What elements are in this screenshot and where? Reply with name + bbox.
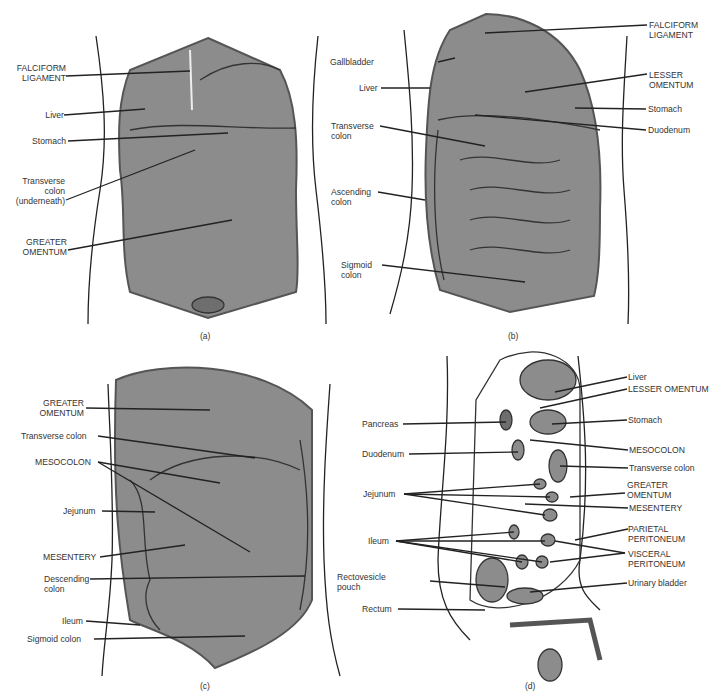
anatomy-illustration — [0, 0, 720, 698]
label-greater-omentum-a: GREATER OMENTUM — [10, 237, 67, 257]
label-mesocolon-c: MESOCOLON — [35, 457, 91, 467]
body-outline-left-b — [390, 30, 413, 314]
label-descending-colon-c: Descending colon — [44, 574, 89, 594]
label-visceral-peritoneum-d: VISCERAL PERITONEUM — [628, 549, 685, 569]
caption-d: (d) — [525, 681, 535, 691]
label-rectum-d: Rectum — [362, 604, 392, 614]
label-ileum-c: Ileum — [62, 616, 83, 626]
label-liver-d: Liver — [628, 372, 647, 382]
label-sigmoid-colon-b: Sigmoid colon — [341, 260, 372, 280]
label-ascending-colon-b: Ascending colon — [331, 187, 371, 207]
label-pancreas-d: Pancreas — [362, 419, 398, 429]
label-sigmoid-colon-c: Sigmoid colon — [27, 634, 81, 644]
label-liver-b: Liver — [359, 83, 378, 93]
label-falciform-ligament-b: FALCIFORM LIGAMENT — [649, 20, 698, 40]
label-ileum-d: Ileum — [368, 536, 389, 546]
caption-a: (a) — [200, 331, 210, 341]
body-outline-right-a — [312, 36, 326, 324]
caption-b: (b) — [508, 331, 518, 341]
label-lesser-omentum-b: LESSER OMENTUM — [649, 70, 693, 90]
label-jejunum-d: Jejunum — [363, 489, 395, 499]
back-outline-d — [438, 356, 470, 640]
body-outline-right-c — [323, 384, 340, 676]
label-transverse-colon-b: Transverse colon — [331, 121, 374, 141]
label-duodenum-b: Duodenum — [648, 125, 690, 135]
label-duodenum-d: Duodenum — [362, 449, 404, 459]
body-outline-left-c — [102, 384, 113, 676]
label-stomach-d: Stomach — [628, 415, 662, 425]
label-transverse-colon-a: Transverse colon (underneath) — [5, 176, 65, 206]
label-greater-omentum-c: GREATER OMENTUM — [20, 398, 84, 418]
label-mesocolon-d: MESOCOLON — [629, 445, 685, 455]
label-jejunum-c: Jejunum — [63, 506, 95, 516]
omentum-shape-a — [119, 38, 298, 318]
label-mesentery-d: MESENTERY — [629, 503, 682, 513]
label-lesser-omentum-d: LESSER OMENTUM — [628, 384, 709, 394]
caption-c: (c) — [200, 681, 210, 691]
label-urinary-bladder-d: Urinary bladder — [628, 578, 687, 588]
label-parietal-peritoneum-d: PARIETAL PERITONEUM — [628, 524, 685, 544]
label-rectovesicle-pouch-d: Rectovesicle pouch — [337, 572, 386, 592]
front-outline-d — [578, 356, 600, 610]
label-falciform-ligament-a: FALCIFORM LIGAMENT — [10, 63, 66, 83]
label-mesentery-c: MESENTERY — [43, 552, 96, 562]
body-outline-right-b — [622, 36, 628, 324]
label-gallbladder-b: Gallbladder — [330, 57, 374, 67]
label-greater-omentum-d: GREATER OMENTUM — [627, 480, 671, 500]
mesentery-shape-c — [115, 368, 312, 668]
label-liver-a: Liver — [10, 110, 64, 120]
body-outline-left-a — [88, 36, 104, 324]
label-stomach-a: Stomach — [10, 136, 66, 146]
label-stomach-b: Stomach — [648, 104, 682, 114]
label-transverse-colon-d: Transverse colon — [629, 463, 695, 473]
label-transverse-colon-c: Transverse colon — [21, 431, 87, 441]
